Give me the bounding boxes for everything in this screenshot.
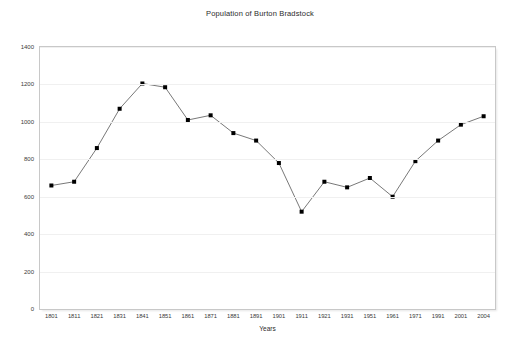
- y-tick-label: 1000: [4, 119, 34, 125]
- data-point-marker: [209, 113, 213, 117]
- gridline: [40, 122, 495, 123]
- data-point-marker: [163, 85, 167, 89]
- gridline: [40, 234, 495, 235]
- data-point-marker: [459, 123, 463, 127]
- data-point-marker: [482, 114, 486, 118]
- gridline: [40, 197, 495, 198]
- data-point-marker: [118, 107, 122, 111]
- x-axis-tick-labels: 1801181118211831184118511861187118811891…: [39, 313, 496, 325]
- data-point-marker: [300, 210, 304, 214]
- chart-figure: Population of Burton Bradstock 020040060…: [0, 0, 520, 348]
- y-tick-label: 1200: [4, 81, 34, 87]
- data-point-marker: [72, 180, 76, 184]
- gridline: [40, 272, 495, 273]
- y-tick-label: 1400: [4, 44, 34, 50]
- y-tick-label: 200: [4, 269, 34, 275]
- x-axis-title: Years: [39, 325, 496, 332]
- x-tick-label: 2004: [467, 313, 501, 319]
- y-tick-label: 600: [4, 194, 34, 200]
- y-tick-label: 0: [4, 306, 34, 312]
- y-tick-label: 800: [4, 156, 34, 162]
- data-point-marker: [345, 185, 349, 189]
- gridline: [40, 159, 495, 160]
- plot-area: [40, 47, 495, 309]
- data-point-marker: [368, 176, 372, 180]
- data-point-marker: [322, 180, 326, 184]
- data-point-marker: [254, 139, 258, 143]
- data-point-marker: [95, 146, 99, 150]
- population-line-series: [40, 47, 495, 309]
- data-point-marker: [49, 183, 53, 187]
- plot-frame: [39, 46, 496, 310]
- y-tick-label: 400: [4, 231, 34, 237]
- y-axis-tick-labels: 0200400600800100012001400: [0, 46, 34, 310]
- gridline: [40, 84, 495, 85]
- data-point-marker: [231, 131, 235, 135]
- data-point-marker: [277, 161, 281, 165]
- chart-title: Population of Burton Bradstock: [0, 9, 520, 18]
- data-point-marker: [436, 139, 440, 143]
- gridline: [40, 47, 495, 48]
